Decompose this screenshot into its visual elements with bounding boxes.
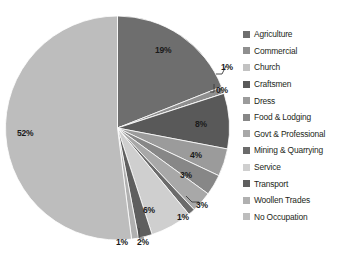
legend-item-label: Food & Lodging bbox=[254, 112, 311, 122]
legend-item-label: Govt & Professional bbox=[254, 129, 325, 139]
legend-swatch-icon bbox=[243, 197, 250, 204]
legend-item-agriculture[interactable]: Agriculture bbox=[243, 26, 349, 43]
legend-item-commercial[interactable]: Commercial bbox=[243, 43, 349, 60]
legend-item-label: Church bbox=[254, 62, 280, 72]
legend-item-label: Dress bbox=[254, 96, 275, 106]
legend-item-label: Woollen Trades bbox=[254, 195, 310, 205]
legend-swatch-icon bbox=[243, 130, 250, 137]
legend-swatch-icon bbox=[243, 180, 250, 187]
slice-label-food-lodging: 3% bbox=[180, 170, 192, 180]
legend-swatch-icon bbox=[243, 97, 250, 104]
slice-label-woollen-trades: 1% bbox=[116, 237, 128, 247]
legend-item-food-lodging[interactable]: Food & Lodging bbox=[243, 109, 349, 126]
legend-swatch-icon bbox=[243, 164, 250, 171]
pie-plot-area: 19%1%0%8%4%3%3%1%6%2%1%52% bbox=[0, 0, 235, 255]
slice-label-dress: 4% bbox=[190, 150, 202, 160]
legend-item-church[interactable]: Church bbox=[243, 59, 349, 76]
legend-swatch-icon bbox=[243, 31, 250, 38]
slice-label-church: 0% bbox=[216, 85, 228, 95]
legend-item-govt-professional[interactable]: Govt & Professional bbox=[243, 126, 349, 143]
legend-item-label: Agriculture bbox=[254, 29, 292, 39]
slice-label-commercial: 1% bbox=[221, 62, 233, 72]
pie-chart: 19%1%0%8%4%3%3%1%6%2%1%52% AgricultureCo… bbox=[0, 0, 349, 255]
slice-label-no-occupation: 52% bbox=[17, 128, 33, 138]
slice-label-craftsmen: 8% bbox=[195, 119, 207, 129]
slice-label-transport: 2% bbox=[137, 237, 149, 247]
legend-swatch-icon bbox=[243, 114, 250, 121]
legend-item-craftsmen[interactable]: Craftsmen bbox=[243, 76, 349, 93]
legend-swatch-icon bbox=[243, 213, 250, 220]
legend-item-service[interactable]: Service bbox=[243, 159, 349, 176]
legend-swatch-icon bbox=[243, 81, 250, 88]
slice-label-service: 6% bbox=[143, 205, 155, 215]
slice-label-mining-quarrying: 1% bbox=[177, 212, 189, 222]
legend-item-label: No Occupation bbox=[254, 212, 307, 222]
legend: AgricultureCommercialChurchCraftsmenDres… bbox=[243, 26, 349, 225]
legend-item-label: Commercial bbox=[254, 46, 297, 56]
legend-item-dress[interactable]: Dress bbox=[243, 92, 349, 109]
legend-item-no-occupation[interactable]: No Occupation bbox=[243, 209, 349, 226]
legend-item-transport[interactable]: Transport bbox=[243, 175, 349, 192]
legend-swatch-icon bbox=[243, 64, 250, 71]
legend-item-label: Craftsmen bbox=[254, 79, 291, 89]
legend-item-label: Transport bbox=[254, 179, 288, 189]
legend-item-mining-quarrying[interactable]: Mining & Quarrying bbox=[243, 142, 349, 159]
legend-item-label: Mining & Quarrying bbox=[254, 145, 323, 155]
legend-swatch-icon bbox=[243, 47, 250, 54]
slice-label-govt-professional: 3% bbox=[196, 200, 208, 210]
legend-item-label: Service bbox=[254, 162, 281, 172]
legend-item-woollen-trades[interactable]: Woollen Trades bbox=[243, 192, 349, 209]
legend-swatch-icon bbox=[243, 147, 250, 154]
slice-label-agriculture: 19% bbox=[155, 45, 171, 55]
